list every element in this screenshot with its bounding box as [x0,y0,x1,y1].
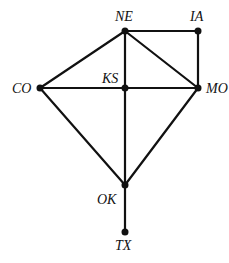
label-ok: OK [97,192,117,207]
label-tx: TX [115,238,132,253]
node-ok [122,182,129,189]
edge-co-ok [40,88,125,185]
edges [40,31,198,232]
label-ia: IA [189,9,204,24]
node-co [37,85,44,92]
labels: NE IA CO KS MO OK TX [12,9,228,253]
label-co: CO [12,81,31,96]
label-mo: MO [205,81,228,96]
node-ne [122,28,129,35]
node-ks [122,85,129,92]
node-tx [122,229,129,236]
graph-diagram: NE IA CO KS MO OK TX [0,0,229,263]
nodes [37,28,202,236]
edge-ne-mo [125,31,198,88]
node-mo [195,85,202,92]
label-ks: KS [101,71,118,86]
label-ne: NE [114,9,133,24]
node-ia [195,28,202,35]
edge-mo-ok [125,88,198,185]
